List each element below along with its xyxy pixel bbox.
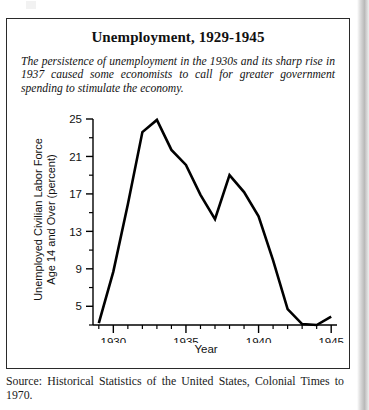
figure-box: Unemployment, 1929-1945 The persistence … <box>6 18 350 369</box>
scan-artifact <box>26 1 36 9</box>
chart-tick-labels: 59131721251930193519401945 <box>69 113 344 343</box>
x-tick-label: 1935 <box>173 336 199 343</box>
chart-series <box>99 120 331 325</box>
figure-caption: The persistence of unemployment in the 1… <box>21 55 335 95</box>
x-tick-label: 1945 <box>318 336 344 343</box>
y-tick-label: 25 <box>69 113 82 125</box>
figure-title: Unemployment, 1929-1945 <box>7 29 349 46</box>
y-tick-label: 9 <box>76 263 82 275</box>
x-axis-label: Year <box>7 343 349 355</box>
x-tick-label: 1930 <box>101 336 127 343</box>
y-tick-label: 5 <box>76 300 82 312</box>
page-edge-shadow <box>357 0 369 410</box>
y-tick-label: 17 <box>69 188 82 200</box>
y-tick-label: 21 <box>69 151 82 163</box>
x-tick-label: 1940 <box>246 336 272 343</box>
x-axis-label-text: Year <box>194 343 217 355</box>
chart-area: Unemployed Civilian Labor ForceAge 14 an… <box>7 111 349 367</box>
page-canvas: Unemployment, 1929-1945 The persistence … <box>0 0 369 410</box>
line-chart-plot: 59131721251930193519401945 <box>7 111 349 343</box>
unemployment-line <box>99 120 331 325</box>
y-tick-label: 13 <box>69 226 82 238</box>
source-note: Source: Historical Statistics of the Uni… <box>6 375 344 402</box>
